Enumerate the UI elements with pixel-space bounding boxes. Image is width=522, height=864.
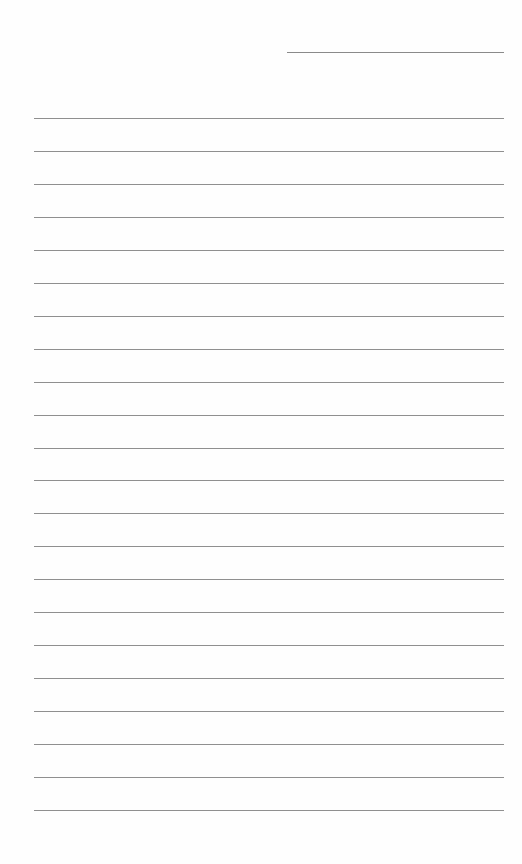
ruled-line (34, 777, 504, 778)
ruled-line (34, 316, 504, 317)
ruled-line (34, 711, 504, 712)
ruled-line (34, 480, 504, 481)
ruled-line (34, 546, 504, 547)
ruled-line (34, 612, 504, 613)
ruled-line (34, 349, 504, 350)
lined-paper-page (0, 0, 522, 864)
ruled-line (34, 513, 504, 514)
ruled-line (34, 283, 504, 284)
ruled-line (34, 118, 504, 119)
ruled-line (34, 415, 504, 416)
ruled-line (34, 744, 504, 745)
ruled-line (34, 184, 504, 185)
ruled-line (34, 382, 504, 383)
ruled-line (34, 151, 504, 152)
header-date-line (287, 52, 504, 53)
ruled-line (34, 645, 504, 646)
ruled-line (34, 678, 504, 679)
ruled-line (34, 810, 504, 811)
ruled-line (34, 448, 504, 449)
ruled-line (34, 579, 504, 580)
ruled-line (34, 217, 504, 218)
ruled-line (34, 250, 504, 251)
